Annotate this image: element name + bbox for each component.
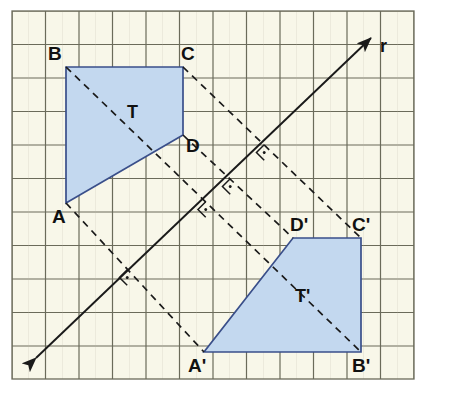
reflection-diagram: BCDATD'C'B'A'T'r (0, 0, 467, 399)
geometry-figure: BCDATD'C'B'A'T'r Banco de imagens/Arquiv… (0, 0, 467, 399)
vertex-label-c-prime: C' (352, 214, 370, 235)
mirror-line-label: r (380, 36, 387, 56)
shape-label-t: T (127, 102, 138, 122)
vertex-label-a-prime: A' (188, 355, 206, 376)
vertex-label-b: B (48, 43, 62, 64)
vertex-label-d-prime: D' (290, 214, 308, 235)
vertex-label-a: A (52, 206, 66, 227)
vertex-label-b-prime: B' (352, 355, 370, 376)
shape-label-t-prime: T' (295, 286, 310, 306)
vertex-label-c: C (181, 43, 195, 64)
vertex-label-d: D (186, 135, 200, 156)
